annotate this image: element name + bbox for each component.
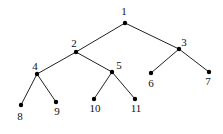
node-label-4: 4 [32, 60, 38, 72]
tree-node-6 [149, 71, 153, 75]
edge-5-10 [94, 72, 112, 99]
edge-1-2 [76, 23, 125, 52]
node-label-2: 2 [71, 37, 77, 49]
tree-node-1 [123, 21, 127, 25]
edge-4-9 [37, 74, 56, 102]
node-label-1: 1 [121, 5, 127, 17]
binary-tree-diagram: 1234567891011 [0, 0, 223, 134]
node-label-10: 10 [90, 102, 102, 114]
node-label-6: 6 [148, 77, 154, 89]
tree-node-4 [35, 72, 39, 76]
edge-4-8 [21, 74, 37, 105]
tree-node-8 [19, 103, 23, 107]
node-label-7: 7 [205, 75, 211, 87]
tree-nodes [19, 21, 211, 107]
edge-1-3 [125, 23, 179, 49]
edge-3-7 [179, 49, 209, 72]
node-label-9: 9 [54, 105, 60, 117]
node-label-5: 5 [116, 59, 122, 71]
edge-2-4 [37, 52, 76, 74]
edge-2-5 [76, 52, 112, 72]
tree-node-5 [110, 70, 114, 74]
node-label-11: 11 [131, 102, 142, 114]
tree-labels: 1234567891011 [17, 5, 211, 122]
node-label-3: 3 [181, 36, 187, 48]
tree-node-9 [54, 100, 58, 104]
node-label-8: 8 [17, 110, 23, 122]
edge-3-6 [151, 49, 179, 73]
tree-node-7 [207, 70, 211, 74]
tree-node-10 [92, 97, 96, 101]
tree-node-11 [133, 97, 137, 101]
tree-node-2 [74, 50, 78, 54]
edge-5-11 [112, 72, 135, 99]
